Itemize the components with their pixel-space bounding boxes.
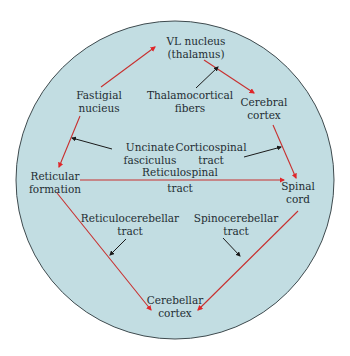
node-reticular-formation: Reticular formation <box>29 170 81 195</box>
corticospinal-line1: Corticospinal <box>175 141 247 153</box>
cerebellar-circuit-diagram: VL nucleus (thalamus) Fastigial nucieus … <box>0 0 350 356</box>
vl-nucleus-line1: VL nucleus <box>165 35 225 47</box>
node-fastigial-nucleus: Fastigial nucieus <box>76 89 122 114</box>
uncinate-line2: fasciculus <box>124 154 177 166</box>
reticular-line2: formation <box>29 183 81 195</box>
cerebellar-cortex-line2: cortex <box>158 307 192 319</box>
reticulospinal-line1: Reticulospinal <box>142 166 219 178</box>
thalamocortical-line2: fibers <box>175 102 205 114</box>
vl-nucleus-line2: (thalamus) <box>167 48 224 60</box>
cerebral-cortex-line2: cortex <box>247 109 281 121</box>
uncinate-line1: Uncinate <box>126 141 174 153</box>
reticulocerebellar-line2: tract <box>117 225 143 237</box>
reticulospinal-line2: tract <box>167 182 193 194</box>
fastigial-line2: nucieus <box>78 102 119 114</box>
thalamocortical-line1: Thalamocortical <box>147 89 234 101</box>
label-uncinate-fasciculus: Uncinate fasciculus <box>124 141 177 166</box>
spinal-cord-line2: cord <box>286 193 310 205</box>
reticular-line1: Reticular <box>31 170 81 182</box>
node-vl-nucleus: VL nucleus (thalamus) <box>165 35 225 60</box>
spinocerebellar-line1: Spinocerebellar <box>194 212 280 224</box>
spinal-cord-line1: Spinal <box>281 180 315 192</box>
fastigial-line1: Fastigial <box>76 89 122 101</box>
spinocerebellar-line2: tract <box>223 225 249 237</box>
cerebral-cortex-line1: Cerebral <box>241 96 288 108</box>
cerebellar-cortex-line1: Cerebellar <box>147 294 204 306</box>
reticulocerebellar-line1: Reticulocerebellar <box>81 212 180 224</box>
corticospinal-line2: tract <box>198 154 224 166</box>
